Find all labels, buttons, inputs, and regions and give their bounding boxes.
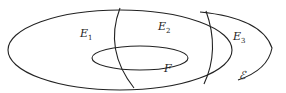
label-script-E: ℰ: [239, 69, 247, 82]
inner-ellipse-F: [92, 46, 188, 70]
label-E1: E1: [79, 27, 93, 42]
label-E3: E3: [232, 30, 246, 45]
set-diagram: E1 E2 E3 F ℰ: [0, 0, 286, 93]
outer-right-arc: [200, 12, 272, 80]
divider-left: [114, 8, 134, 88]
label-F: F: [163, 62, 172, 75]
label-E2: E2: [157, 20, 171, 35]
outer-ellipse: [8, 10, 232, 90]
